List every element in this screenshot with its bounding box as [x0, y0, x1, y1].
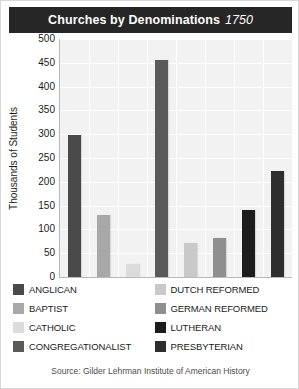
plot-area: Thousands of Students 500450400350300250…	[9, 39, 292, 277]
legend-item: PRESBYTERIAN	[155, 338, 293, 355]
legend-item: CATHOLIC	[13, 319, 151, 336]
legend-item-label: PRESBYTERIAN	[171, 341, 243, 352]
legend-swatch-icon	[155, 303, 166, 314]
legend-swatch-icon	[155, 284, 166, 295]
bar-congregationalist	[155, 60, 168, 277]
legend-item: GERMAN REFORMED	[155, 300, 293, 317]
legend-column-left: ANGLICANBAPTISTCATHOLICCONGREGATIONALIST	[9, 281, 151, 355]
bar-presbyterian	[271, 171, 284, 277]
legend-swatch-icon	[155, 322, 166, 333]
legend-swatch-icon	[13, 303, 24, 314]
page-title: Churches by Denominations	[48, 13, 220, 27]
chart-card: Churches by Denominations 1750 Thousands…	[0, 0, 299, 389]
y-axis-tick-label: 100	[38, 224, 55, 234]
bar-series	[60, 39, 292, 277]
legend-item-label: CONGREGATIONALIST	[29, 341, 131, 352]
y-axis-tick-label: 450	[38, 58, 55, 68]
bar-lutheran	[242, 210, 255, 277]
bar-baptist	[97, 215, 110, 277]
legend-item: CONGREGATIONALIST	[13, 338, 151, 355]
legend-column-right: DUTCH REFORMEDGERMAN REFORMEDLUTHERANPRE…	[151, 281, 293, 355]
legend-item-label: DUTCH REFORMED	[171, 284, 260, 295]
legend-item: ANGLICAN	[13, 281, 151, 298]
y-axis-tick-label: 400	[38, 82, 55, 92]
plot-canvas	[59, 39, 292, 278]
legend: ANGLICANBAPTISTCATHOLICCONGREGATIONALIST…	[9, 281, 292, 355]
y-axis-tick-label: 350	[38, 105, 55, 115]
legend-item-label: BAPTIST	[29, 303, 68, 314]
legend-item: BAPTIST	[13, 300, 151, 317]
legend-swatch-icon	[13, 284, 24, 295]
legend-item-label: GERMAN REFORMED	[171, 303, 268, 314]
legend-swatch-icon	[155, 341, 166, 352]
y-axis-tick-label: 150	[38, 201, 55, 211]
y-axis-ticks: 500450400350300250200150100500	[23, 39, 55, 277]
legend-item-label: LUTHERAN	[171, 322, 221, 333]
title-year: 1750	[225, 13, 253, 27]
bar-anglican	[68, 135, 81, 277]
y-axis-label-text: Thousands of Students	[8, 107, 19, 210]
legend-item-label: ANGLICAN	[29, 284, 77, 295]
legend-item-label: CATHOLIC	[29, 322, 76, 333]
legend-item: DUTCH REFORMED	[155, 281, 293, 298]
y-axis-tick-label: 50	[44, 248, 55, 258]
y-axis-tick-label: 500	[38, 34, 55, 44]
legend-item: LUTHERAN	[155, 319, 293, 336]
source-note: Source: Gilder Lehrman Institute of Amer…	[9, 361, 292, 381]
y-axis-tick-label: 300	[38, 129, 55, 139]
source-text: Source: Gilder Lehrman Institute of Amer…	[51, 366, 249, 376]
legend-swatch-icon	[13, 322, 24, 333]
y-axis-tick-label: 200	[38, 177, 55, 187]
y-axis-tick-label: 250	[38, 153, 55, 163]
chart-title-bar: Churches by Denominations 1750	[9, 7, 292, 33]
bar-catholic	[126, 264, 139, 277]
y-axis-label: Thousands of Students	[5, 39, 21, 277]
legend-swatch-icon	[13, 341, 24, 352]
bar-dutch-reformed	[184, 243, 197, 277]
bar-german-reformed	[213, 238, 226, 277]
